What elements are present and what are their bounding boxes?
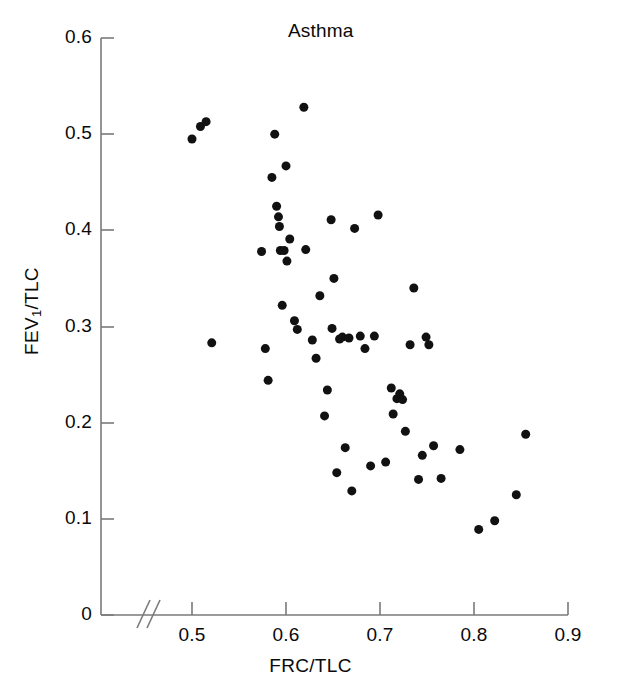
data-point <box>278 301 287 310</box>
data-point <box>257 247 266 256</box>
data-point <box>275 222 284 231</box>
data-point <box>315 291 324 300</box>
data-point <box>350 224 359 233</box>
data-point <box>267 173 276 182</box>
data-point <box>261 344 270 353</box>
y-axis-ticks <box>101 38 114 615</box>
data-point <box>270 130 279 139</box>
data-point <box>490 516 499 525</box>
data-point <box>387 384 396 393</box>
data-point <box>424 340 433 349</box>
y-axis-title-base: FEV <box>21 317 42 355</box>
chart-title: Asthma <box>288 20 354 42</box>
data-point <box>409 284 418 293</box>
data-point <box>301 245 310 254</box>
data-point <box>312 354 321 363</box>
x-tick-label: 0.8 <box>439 624 509 646</box>
scatter-plot-figure: Asthma 0.6 0.5 0.4 0.3 0.2 0.1 0 0.5 0.6… <box>0 0 621 699</box>
data-point <box>374 210 383 219</box>
data-point <box>202 117 211 126</box>
data-point <box>455 445 464 454</box>
data-point <box>429 441 438 450</box>
data-point <box>341 443 350 452</box>
x-tick-label: 0.6 <box>251 624 321 646</box>
y-axis-title-subscript: 1 <box>29 310 44 318</box>
data-point <box>474 525 483 534</box>
data-point <box>282 161 291 170</box>
x-tick-label: 0.9 <box>533 624 603 646</box>
data-point <box>299 103 308 112</box>
data-point <box>370 332 379 341</box>
x-axis-ticks <box>192 602 568 615</box>
plot-canvas <box>0 0 621 699</box>
data-point-group <box>188 103 531 534</box>
data-point <box>418 451 427 460</box>
data-point <box>264 376 273 385</box>
x-tick-label: 0.5 <box>157 624 227 646</box>
data-point <box>398 395 407 404</box>
data-point <box>512 490 521 499</box>
data-point <box>401 427 410 436</box>
data-point <box>323 385 332 394</box>
y-axis-title: FEV1/TLC <box>21 241 43 381</box>
data-point <box>285 234 294 243</box>
data-point <box>422 333 431 342</box>
data-point <box>381 458 390 467</box>
data-point <box>360 344 369 353</box>
data-point <box>414 475 423 484</box>
y-tick-label: 0.6 <box>30 26 92 48</box>
data-point <box>347 486 356 495</box>
data-point <box>356 332 365 341</box>
data-point <box>282 257 291 266</box>
x-tick-label: 0.7 <box>345 624 415 646</box>
data-point <box>280 246 289 255</box>
data-point <box>332 468 341 477</box>
data-point <box>272 202 281 211</box>
y-tick-label: 0 <box>30 603 92 625</box>
y-tick-label: 0.2 <box>30 411 92 433</box>
data-point <box>366 461 375 470</box>
data-point <box>328 324 337 333</box>
data-point <box>207 338 216 347</box>
data-point <box>188 134 197 143</box>
y-tick-label: 0.4 <box>30 218 92 240</box>
data-point <box>327 215 336 224</box>
y-tick-label: 0.5 <box>30 122 92 144</box>
data-point <box>290 316 299 325</box>
data-point <box>320 411 329 420</box>
x-axis-title: FRC/TLC <box>0 655 621 677</box>
data-point <box>437 474 446 483</box>
data-point <box>329 274 338 283</box>
y-axis-title-rest: /TLC <box>21 267 42 309</box>
data-point <box>389 410 398 419</box>
data-point <box>293 325 302 334</box>
data-point <box>406 340 415 349</box>
data-point <box>344 334 353 343</box>
y-tick-label: 0.1 <box>30 507 92 529</box>
data-point <box>308 335 317 344</box>
data-point <box>521 430 530 439</box>
data-point <box>274 212 283 221</box>
